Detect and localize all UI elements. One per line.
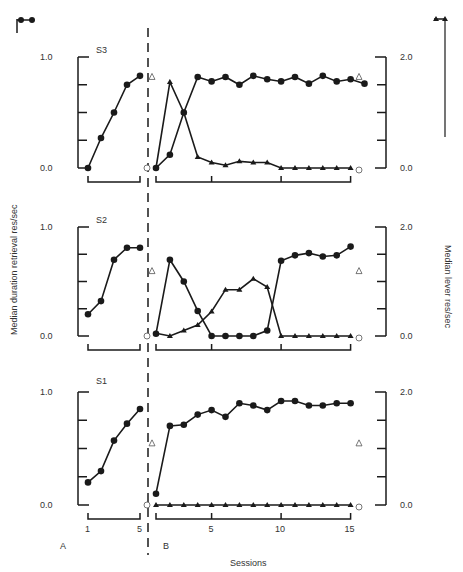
x-tick-label: 5 xyxy=(209,524,214,534)
retrieval-point xyxy=(250,73,257,80)
retrieval-point xyxy=(306,80,313,87)
retrieval-point xyxy=(111,109,118,116)
open-circle-marker xyxy=(356,504,362,510)
retrieval-point xyxy=(347,76,354,83)
retrieval-point xyxy=(278,398,285,405)
panel-label: S3 xyxy=(96,45,107,55)
phase-b-x-axis xyxy=(156,344,351,350)
retrieval-point xyxy=(320,253,327,260)
retrieval-point xyxy=(208,333,215,340)
retrieval-point xyxy=(111,437,118,444)
retrieval-point xyxy=(85,311,92,318)
retrieval-point xyxy=(124,81,131,88)
retrieval-point xyxy=(333,78,340,85)
retrieval-point xyxy=(264,407,271,414)
phase-b-retrieval-line xyxy=(156,401,351,494)
retrieval-point xyxy=(320,73,327,80)
phase-a-x-axis xyxy=(88,344,140,350)
phase-a-x-axis xyxy=(88,513,140,519)
retrieval-point xyxy=(111,256,118,263)
retrieval-point xyxy=(98,298,105,305)
chart-canvas: 1.00.0S32.00.01.00.0S22.00.01.00.0S12.00… xyxy=(0,0,463,572)
retrieval-point xyxy=(347,243,354,250)
open-circle-marker xyxy=(144,333,150,339)
retrieval-point xyxy=(167,423,174,430)
panel-label: S2 xyxy=(96,215,107,225)
retrieval-point xyxy=(333,400,340,407)
retrieval-point xyxy=(264,76,271,83)
open-triangle-marker xyxy=(356,268,362,274)
retrieval-point xyxy=(85,479,92,486)
open-triangle-marker xyxy=(149,440,155,446)
retrieval-point xyxy=(85,165,92,172)
open-circle-marker xyxy=(144,165,150,171)
retrieval-point xyxy=(98,135,105,142)
retrieval-point xyxy=(124,420,131,427)
retrieval-point xyxy=(278,78,285,85)
right-y-tick-label: 2.0 xyxy=(400,52,413,62)
retrieval-point xyxy=(222,333,229,340)
right-y-tick-label: 2.0 xyxy=(400,387,413,397)
panel-label: S1 xyxy=(96,376,107,386)
retrieval-point xyxy=(361,80,368,87)
retrieval-point xyxy=(194,411,201,418)
phase-label-a: A xyxy=(60,541,66,551)
open-circle-marker xyxy=(356,335,362,341)
left-y-tick-label: 0.0 xyxy=(40,163,53,173)
left-y-tick-label: 1.0 xyxy=(40,387,53,397)
lever-point xyxy=(195,154,201,159)
retrieval-point xyxy=(333,252,340,259)
retrieval-point xyxy=(153,490,160,497)
phase-a-retrieval-line xyxy=(88,409,140,482)
retrieval-point xyxy=(137,406,144,413)
left-y-tick-label: 0.0 xyxy=(40,500,53,510)
lever-point xyxy=(250,276,256,281)
retrieval-point xyxy=(181,421,188,428)
left-y-tick-label: 1.0 xyxy=(40,52,53,62)
retrieval-point xyxy=(137,244,144,251)
retrieval-point xyxy=(194,308,201,315)
phase-b-lever-line xyxy=(156,279,351,336)
x-axis-title: Sessions xyxy=(230,558,267,568)
x-tick-label: 15 xyxy=(345,524,355,534)
retrieval-point xyxy=(167,151,174,158)
open-triangle-marker xyxy=(356,73,362,79)
retrieval-point xyxy=(194,74,201,81)
phase-a-x-axis xyxy=(88,176,140,182)
retrieval-point xyxy=(306,250,313,257)
retrieval-point xyxy=(98,468,105,475)
legend-circle-icon xyxy=(29,17,35,23)
open-triangle-marker xyxy=(356,440,362,446)
right-y-tick-label: 0.0 xyxy=(400,163,413,173)
retrieval-point xyxy=(278,257,285,264)
retrieval-point xyxy=(250,333,257,340)
retrieval-point xyxy=(250,402,257,409)
retrieval-point xyxy=(236,400,243,407)
retrieval-point xyxy=(292,398,299,405)
left-y-tick-label: 0.0 xyxy=(40,331,53,341)
retrieval-point xyxy=(181,278,188,285)
retrieval-point xyxy=(264,327,271,334)
retrieval-point xyxy=(124,244,131,251)
phase-b-x-axis xyxy=(156,513,351,519)
x-tick-label: 1 xyxy=(85,524,90,534)
open-triangle-marker xyxy=(149,268,155,274)
retrieval-point xyxy=(167,256,174,263)
right-y-tick-label: 0.0 xyxy=(400,500,413,510)
retrieval-point xyxy=(222,74,229,81)
phase-b-x-axis xyxy=(156,176,351,182)
retrieval-point xyxy=(236,333,243,340)
retrieval-point xyxy=(320,402,327,409)
x-tick-label: 5 xyxy=(137,524,142,534)
retrieval-point xyxy=(306,402,313,409)
retrieval-point xyxy=(236,81,243,88)
right-y-tick-label: 0.0 xyxy=(400,331,413,341)
right-y-tick-label: 2.0 xyxy=(400,222,413,232)
retrieval-point xyxy=(222,414,229,421)
open-circle-marker xyxy=(356,167,362,173)
phase-a-retrieval-line xyxy=(88,76,140,168)
phase-b-lever-line xyxy=(156,82,351,168)
lever-point xyxy=(167,79,173,84)
legend-circle-icon xyxy=(18,17,24,23)
retrieval-point xyxy=(292,74,299,81)
